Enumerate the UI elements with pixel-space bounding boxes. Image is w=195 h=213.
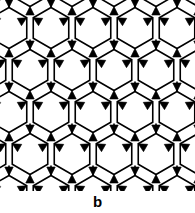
- figure-label: b: [0, 191, 195, 213]
- hexagonal-net-drawing: [0, 0, 195, 191]
- pattern-image: [0, 0, 195, 191]
- figure-container: b: [0, 0, 195, 213]
